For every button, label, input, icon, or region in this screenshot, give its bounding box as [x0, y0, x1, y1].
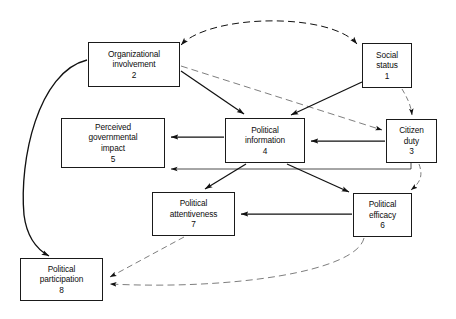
node-political-information[interactable]: Political information 4: [225, 118, 305, 163]
node-label: Political attentiveness: [170, 198, 218, 219]
path-diagram: Organizational involvement 2 Social stat…: [0, 0, 456, 319]
node-label: Citizen duty: [399, 125, 424, 146]
node-social-status[interactable]: Social status 1: [362, 43, 412, 88]
edge-6-to-8: [110, 238, 364, 285]
node-number: 8: [59, 285, 64, 296]
node-political-efficacy[interactable]: Political efficacy 6: [353, 193, 412, 237]
node-number: 7: [191, 219, 196, 230]
node-number: 1: [385, 71, 390, 82]
node-label: Political participation: [40, 264, 83, 285]
node-number: 5: [111, 154, 116, 165]
node-label: Political information: [245, 125, 285, 146]
node-number: 2: [132, 70, 137, 81]
node-number: 4: [263, 146, 268, 157]
edge-3-to-6: [411, 164, 421, 190]
node-organizational-involvement[interactable]: Organizational involvement 2: [88, 42, 180, 87]
node-political-participation[interactable]: Political participation 8: [20, 258, 103, 301]
edge-7-to-8: [110, 237, 184, 277]
node-citizen-duty[interactable]: Citizen duty 3: [386, 119, 437, 163]
node-number: 3: [409, 146, 414, 157]
node-label: Political efficacy: [369, 199, 397, 220]
edge-4-to-6: [287, 164, 349, 192]
node-label: Organizational involvement: [108, 49, 160, 70]
edge-4-to-7: [205, 164, 246, 189]
node-label: Perceived governmental impact: [88, 122, 137, 154]
edge-2-to-4: [181, 71, 244, 114]
node-political-attentiveness[interactable]: Political attentiveness 7: [152, 192, 235, 236]
edge-1-to-3: [402, 89, 412, 115]
edge-1-to-4: [291, 82, 362, 115]
node-perceived-governmental-impact[interactable]: Perceived governmental impact 5: [61, 118, 165, 168]
node-number: 6: [380, 220, 385, 231]
edge-2-to-1-correlation: [181, 21, 357, 45]
node-label: Social status: [376, 50, 398, 71]
